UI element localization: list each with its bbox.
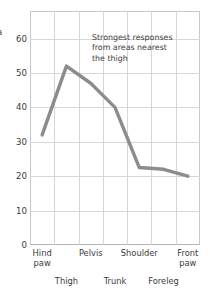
x-tick-label: Shoulder: [121, 249, 158, 259]
x-tick-label: Thigh: [55, 277, 78, 287]
y-axis-title: a: [0, 27, 2, 37]
chart-annotation: Strongest responses from areas nearest t…: [92, 33, 210, 64]
annotation-line-1: Strongest responses: [92, 33, 210, 43]
x-tick-label: Pelvis: [79, 249, 103, 259]
y-tick-label: 20: [5, 171, 27, 181]
annotation-line-2: from areas nearest: [92, 43, 210, 53]
x-tick-label: Hind paw: [33, 249, 52, 268]
y-tick-label: 50: [5, 68, 27, 78]
plot-area: Strongest responses from areas nearest t…: [30, 11, 200, 245]
chart-figure: a Strongest responses from areas nearest…: [0, 0, 210, 297]
x-tick-label: Trunk: [104, 277, 127, 287]
x-tick-label: Front paw: [177, 249, 198, 268]
y-tick-label: 0: [5, 240, 27, 250]
x-tick-label: Foreleg: [148, 277, 179, 287]
y-tick-label: 10: [5, 206, 27, 216]
annotation-line-3: the thigh: [92, 54, 210, 64]
y-tick-label: 40: [5, 102, 27, 112]
y-tick-label: 30: [5, 137, 27, 147]
y-tick-label: 60: [5, 34, 27, 44]
